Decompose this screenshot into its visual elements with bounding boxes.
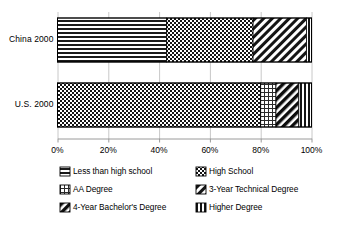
x-tick-label: 0% <box>38 145 78 155</box>
x-tick-label: 80% <box>241 145 281 155</box>
legend-label: High School <box>209 166 253 176</box>
legend-label: AA Degree <box>73 184 113 194</box>
legend-swatch-checkerboard-icon <box>196 167 206 176</box>
legend-swatch-dark-diagonal-icon <box>60 203 70 212</box>
bar-segment <box>58 83 261 127</box>
bar-series-group <box>58 18 312 127</box>
bar-segment <box>167 18 253 62</box>
x-tick-label: 60% <box>190 145 230 155</box>
stacked-bar-chart: China 2000U.S. 2000 0%20%40%60%80%100% L… <box>0 0 346 227</box>
legend-swatch-horizontal-lines-icon <box>60 167 70 176</box>
legend-swatch-vertical-lines-icon <box>196 203 206 212</box>
category-label-china-2000: China 2000 <box>9 34 53 44</box>
x-tick-label: 20% <box>88 145 128 155</box>
legend-swatch-diagonal-stripes-icon <box>196 185 206 194</box>
bar-segment <box>299 83 312 127</box>
bar-segment <box>261 83 276 127</box>
x-tick-label: 100% <box>292 145 332 155</box>
legend-label: Higher Degree <box>209 202 262 212</box>
legend-label: 4-Year Bachelor's Degree <box>73 202 166 212</box>
x-tick-label: 40% <box>139 145 179 155</box>
bar-segment <box>276 83 299 127</box>
legend-label: 3-Year Technical Degree <box>209 184 298 194</box>
legend-swatch-grid-icon <box>60 185 70 194</box>
bar-segment <box>253 18 306 62</box>
bar-segment <box>58 18 167 62</box>
category-label-us-2000: U.S. 2000 <box>15 99 54 109</box>
legend-label: Less than high school <box>73 166 152 176</box>
bar-segment <box>306 18 311 62</box>
